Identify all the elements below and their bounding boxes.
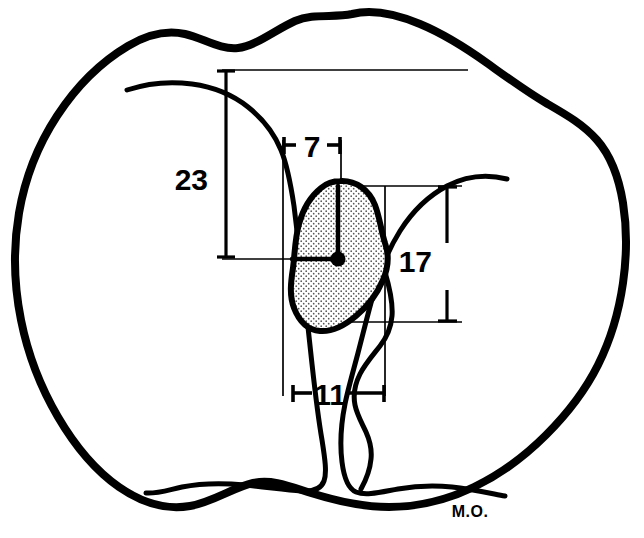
dimension-7-label: 7 [304, 130, 321, 163]
anatomical-diagram: 23 7 17 11 M.O. [0, 0, 644, 538]
dimension-17-label: 17 [399, 245, 432, 278]
center-point-marker [331, 252, 346, 267]
figure-canvas: 23 7 17 11 M.O. [0, 0, 644, 538]
dimension-11-label: 11 [314, 378, 346, 411]
dimension-17: 17 [399, 186, 457, 322]
dimension-7: 7 [283, 130, 341, 163]
dimension-23-label: 23 [175, 163, 208, 196]
dimension-23: 23 [175, 70, 235, 258]
artist-signature: M.O. [452, 503, 489, 520]
dimension-11: 11 [292, 378, 385, 411]
